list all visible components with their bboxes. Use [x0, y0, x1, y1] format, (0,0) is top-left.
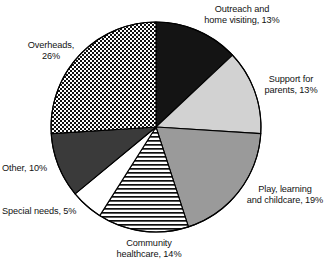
pie-label-special-needs: Special needs, 5% [2, 206, 98, 217]
pie-label-community-healthcare: Community healthcare, 14% [96, 238, 202, 261]
pie-label-other: Other, 10% [2, 163, 78, 174]
pie-label-support-for-parents: Support for parents, 13% [252, 74, 330, 97]
pie-label-play-learning-and-childcare: Play, learning and childcare, 19% [240, 184, 330, 207]
pie-chart: Outreach and home visiting, 13% Support … [0, 0, 332, 266]
pie-label-outreach: Outreach and home visiting, 13% [186, 4, 298, 27]
pie-label-overheads: Overheads, 26% [10, 40, 92, 63]
pie-slice-overheads [51, 22, 156, 134]
